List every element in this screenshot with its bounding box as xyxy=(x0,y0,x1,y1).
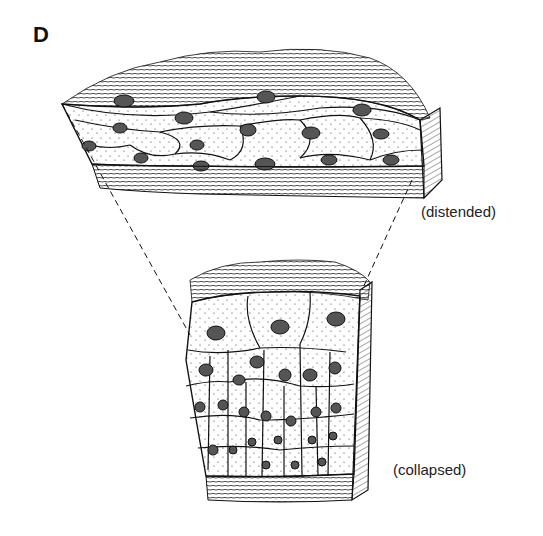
distended-label: (distended) xyxy=(421,203,496,220)
distended-epithelium-block xyxy=(62,49,442,198)
collapsed-epithelium-block xyxy=(186,260,372,502)
collapsed-label: (collapsed) xyxy=(393,461,466,478)
epithelium-illustration xyxy=(0,0,543,536)
